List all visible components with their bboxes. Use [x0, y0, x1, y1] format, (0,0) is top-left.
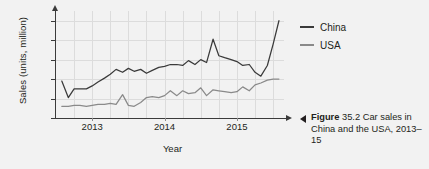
x-tick-mark: [237, 118, 238, 121]
x-tick-label: 2014: [145, 121, 185, 132]
caption-arrow-icon: [300, 115, 306, 123]
caption-figure-word: Figure: [311, 112, 339, 122]
legend-swatch-china: [300, 26, 314, 28]
y-axis-arrow-icon: [52, 5, 58, 11]
x-tick-mark: [92, 118, 93, 121]
caption-text: Figure 35.2 Car sales in China and the U…: [311, 112, 426, 147]
y-tick-mark: [51, 118, 55, 119]
legend-item-usa: USA: [300, 36, 390, 54]
plot-area: [56, 11, 284, 118]
chart-legend: China USA: [300, 18, 390, 54]
x-tick-mark: [165, 118, 166, 121]
series-lines: [56, 11, 284, 118]
x-axis-arrow-icon: [286, 115, 292, 121]
legend-label-usa: USA: [320, 40, 341, 51]
series-line-usa: [62, 79, 279, 106]
legend-item-china: China: [300, 18, 390, 36]
y-tick-mark: [51, 79, 55, 80]
figure-container: Sales (units, million) Year 141618202224…: [0, 0, 429, 169]
y-tick-mark: [51, 40, 55, 41]
y-tick-mark: [51, 60, 55, 61]
legend-label-china: China: [320, 22, 346, 33]
series-line-china: [62, 21, 279, 98]
legend-swatch-usa: [300, 44, 314, 46]
y-tick-mark: [51, 99, 55, 100]
line-chart: Sales (units, million) Year 141618202224…: [0, 0, 300, 169]
x-axis-label: Year: [55, 143, 290, 154]
y-axis-line: [55, 10, 56, 119]
y-axis-label: Sales (units, million): [17, 1, 28, 121]
x-axis-line: [55, 118, 287, 119]
figure-caption: Figure 35.2 Car sales in China and the U…: [300, 112, 426, 147]
x-tick-label: 2013: [72, 121, 112, 132]
x-tick-label: 2015: [217, 121, 257, 132]
y-tick-mark: [51, 21, 55, 22]
